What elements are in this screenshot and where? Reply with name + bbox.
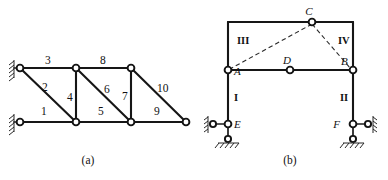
body-label-II: II [340, 92, 348, 103]
member-label-4: 4 [67, 91, 73, 103]
member-label-3: 3 [45, 54, 51, 66]
frame-node-C [309, 19, 316, 26]
caption-a: (a) [82, 154, 95, 167]
support-E-ground-pin [225, 136, 231, 142]
member-label-5: 5 [98, 105, 104, 117]
truss-node-bottom-right [183, 119, 190, 126]
body-label-IV: IV [338, 35, 350, 46]
figure-root: 1 2 3 4 5 6 7 8 9 10 (a) [0, 0, 388, 180]
support-F [340, 116, 377, 148]
truss-node-bottom-left [17, 119, 24, 126]
body-label-III: III [237, 35, 249, 46]
member-label-10: 10 [157, 82, 169, 94]
frame-node-E [225, 121, 232, 128]
member-label-7: 7 [122, 90, 128, 102]
truss-node-top-left [17, 65, 24, 72]
support-F-wall-pin [365, 121, 371, 127]
member-label-2: 2 [42, 81, 48, 93]
dashed-line-c-a [230, 24, 312, 69]
truss-node-top-right [128, 65, 135, 72]
member-label-1: 1 [41, 105, 47, 117]
panel-b-frame: C A D B E F III IV I II (b) [204, 5, 377, 167]
caption-b: (b) [283, 154, 297, 167]
member-label-9: 9 [154, 105, 160, 117]
support-F-ground-pin [350, 136, 356, 142]
body-label-I: I [234, 92, 238, 103]
joint-label-A: A [233, 65, 241, 77]
frame-node-B [350, 67, 357, 74]
member-label-6: 6 [104, 83, 110, 95]
frame-node-A [225, 67, 232, 74]
joint-label-E: E [233, 118, 241, 130]
joint-label-B: B [341, 55, 348, 67]
joint-label-C: C [305, 5, 313, 17]
joint-label-D: D [282, 54, 291, 66]
truss-node-top-mid [73, 65, 80, 72]
panel-a-truss: 1 2 3 4 5 6 7 8 9 10 (a) [0, 0, 388, 180]
support-E-wall-pin [210, 121, 216, 127]
truss-node-bottom-mid1 [73, 119, 80, 126]
truss-node-bottom-mid2 [128, 119, 135, 126]
frame-node-F [350, 121, 357, 128]
frame-node-D [287, 67, 294, 74]
member-label-8: 8 [100, 54, 106, 66]
joint-label-F: F [332, 118, 340, 130]
